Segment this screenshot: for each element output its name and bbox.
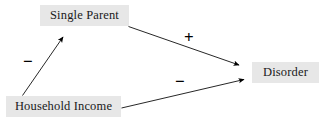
node-disorder: Disorder bbox=[252, 62, 319, 83]
node-single-parent: Single Parent bbox=[40, 5, 129, 26]
path-diagram: Single Parent Household Income Disorder … bbox=[0, 0, 328, 122]
edge-sign-income-to-parent: − bbox=[23, 53, 33, 70]
edge-sign-parent-to-disorder: + bbox=[184, 29, 194, 46]
node-single-parent-label: Single Parent bbox=[50, 9, 119, 22]
node-disorder-label: Disorder bbox=[263, 66, 308, 79]
node-household-income: Household Income bbox=[6, 96, 121, 117]
edge-sign-income-to-disorder: − bbox=[175, 73, 185, 90]
node-household-income-label: Household Income bbox=[15, 100, 112, 113]
